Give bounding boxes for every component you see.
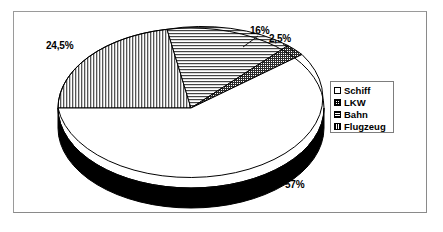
vertical-stripe-swatch-icon [334, 123, 341, 130]
chart-screenshot: 24,5% 16% 2,5% 57% Schiff LKW Bahn Flugz… [0, 0, 443, 232]
data-label-bahn: 16% [250, 25, 269, 36]
crosshatch-swatch-icon [334, 99, 341, 106]
data-label-schiff: 57% [285, 179, 304, 190]
legend-item-schiff[interactable]: Schiff [334, 85, 391, 96]
legend-item-lkw[interactable]: LKW [334, 97, 391, 108]
data-label-flugzeug: 24,5% [46, 40, 73, 51]
legend-item-flugzeug[interactable]: Flugzeug [334, 121, 391, 132]
legend-label-schiff: Schiff [344, 86, 370, 96]
legend-label-lkw: LKW [344, 98, 366, 108]
chart-legend: Schiff LKW Bahn Flugzeug [330, 81, 394, 133]
pie-chart-plot-area: 24,5% 16% 2,5% 57% Schiff LKW Bahn Flugz… [0, 0, 443, 232]
legend-item-bahn[interactable]: Bahn [334, 109, 391, 120]
legend-label-flugzeug: Flugzeug [344, 122, 386, 132]
horizontal-stripe-swatch-icon [334, 111, 341, 118]
legend-label-bahn: Bahn [344, 110, 368, 120]
solid-white-swatch-icon [334, 87, 341, 94]
data-label-lkw: 2,5% [269, 33, 291, 44]
